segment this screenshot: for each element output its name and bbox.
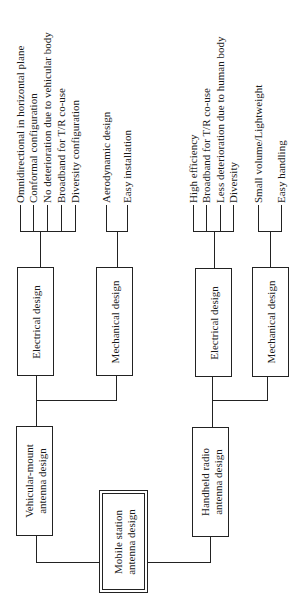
root-node-mobile-station: Mobile station antenna design [99, 490, 148, 593]
handheld-electrical-label: Electrical design [207, 286, 220, 360]
vehicular-node-label: Vehicular-mount antenna design [22, 444, 47, 518]
connector-vehicular-mechanical [116, 375, 117, 401]
leaf-tick [281, 205, 282, 231]
leaf-diversity: Diversity [227, 162, 239, 203]
connector-handheld-electrical [212, 376, 213, 400]
node-vehicular-mechanical-design: Mechanical design [96, 267, 133, 376]
leaf-tick [193, 205, 194, 231]
node-vehicular-electrical-design: Electrical design [17, 267, 54, 376]
handheld-node-label: Handheld radio antenna design [198, 448, 223, 516]
leaf-tick [127, 205, 128, 231]
leaf-omnidirectional: Omnidirectional in horizontal plane [14, 46, 26, 203]
leaf-tick [233, 205, 234, 231]
leaf-easy-handling: Easy handling [275, 140, 287, 203]
leaf-tick [258, 205, 259, 231]
connector-root-left [36, 562, 99, 563]
node-vehicular-mount-antenna-design: Vehicular-mount antenna design [16, 426, 53, 536]
connector-vehicular-bar [36, 400, 117, 401]
connector-handheld-bar [212, 400, 268, 401]
leaf-tick [106, 205, 107, 231]
leaf-conformal: Conformal configuration [27, 93, 39, 203]
node-handheld-radio-antenna-design: Handheld radio antenna design [192, 427, 229, 537]
connector-vehicular-electrical-leafbar [20, 231, 76, 232]
node-handheld-electrical-design: Electrical design [195, 268, 232, 377]
leaf-tick [61, 205, 62, 231]
leaf-tick [206, 205, 207, 231]
connector-handheld-up [212, 400, 213, 427]
vehicular-electrical-label: Electrical design [29, 285, 42, 359]
connector-root-right [148, 562, 211, 563]
leaf-tick [220, 205, 221, 231]
connector-handheld-electrical-stem [214, 231, 215, 268]
vehicular-mechanical-label: Mechanical design [108, 280, 121, 363]
leaf-high-efficiency: High efficiency [187, 134, 199, 203]
connector-handheld-electrical-leafbar [193, 231, 234, 232]
connector-handheld-mechanical-leafbar [258, 231, 282, 232]
connector-vehicular-up [36, 400, 37, 426]
leaf-broadband: Broadband for T/R co-use [200, 88, 212, 203]
leaf-tick [20, 205, 21, 231]
leaf-broadband: Broadband for T/R co-use [55, 88, 67, 203]
leaf-tick [33, 205, 34, 231]
connector-vehicular-mechanical-stem [117, 231, 118, 267]
connector-handheld-mechanical [267, 376, 268, 401]
leaf-aerodynamic: Aerodynamic design [100, 112, 112, 203]
leaf-diversity-configuration: Diversity configuration [69, 100, 81, 203]
handheld-mechanical-label: Mechanical design [264, 281, 277, 364]
root-node-label: Mobile station antenna design [111, 509, 136, 575]
node-handheld-mechanical-design: Mechanical design [252, 267, 289, 377]
connector-vehicular-down [36, 535, 37, 563]
connector-handheld-mechanical-stem [270, 231, 271, 267]
leaf-tick [47, 205, 48, 231]
connector-vehicular-mechanical-leafbar [106, 231, 128, 232]
leaf-small-volume: Small volume/Lightweight [252, 85, 264, 203]
leaf-tick [75, 205, 76, 231]
connector-handheld-down [210, 537, 211, 563]
leaf-less-deterioration-human: Less deterioration due to human body [214, 37, 226, 204]
connector-vehicular-electrical [36, 375, 37, 400]
leaf-no-deterioration-vehicular: No deterioration due to vehicular body [41, 32, 53, 203]
leaf-easy-installation: Easy installation [121, 130, 133, 203]
connector-vehicular-electrical-stem [40, 231, 41, 267]
